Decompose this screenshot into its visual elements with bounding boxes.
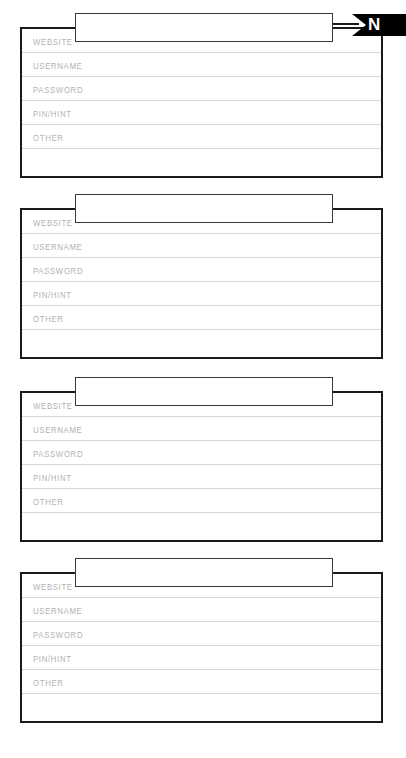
field-row-pin-hint[interactable]: PIN/HINT (22, 282, 381, 306)
password-entry-card: WEBSITE USERNAME PASSWORD PIN/HINT OTHER (20, 208, 383, 359)
password-entry-card: WEBSITE USERNAME PASSWORD PIN/HINT OTHER (20, 572, 383, 723)
field-row-password[interactable]: PASSWORD (22, 77, 381, 101)
field-value-other[interactable] (96, 670, 373, 694)
field-label-username: USERNAME (33, 417, 82, 441)
field-row-username[interactable]: USERNAME (22, 417, 381, 441)
entry-field-rows: WEBSITE USERNAME PASSWORD PIN/HINT OTHER (22, 393, 381, 540)
field-label-password: PASSWORD (33, 622, 83, 646)
field-value-pin-hint[interactable] (96, 465, 373, 489)
field-value-password[interactable] (96, 77, 373, 101)
field-row-other[interactable]: OTHER (22, 306, 381, 330)
entry-field-rows: WEBSITE USERNAME PASSWORD PIN/HINT OTHER (22, 29, 381, 176)
password-entry-card: WEBSITE USERNAME PASSWORD PIN/HINT OTHER (20, 391, 383, 542)
field-row-username[interactable]: USERNAME (22, 53, 381, 77)
field-label-other: OTHER (33, 306, 64, 330)
field-row-blank[interactable] (22, 330, 381, 354)
field-row-password[interactable]: PASSWORD (22, 622, 381, 646)
field-label-other: OTHER (33, 670, 64, 694)
field-label-pin-hint: PIN/HINT (33, 465, 72, 489)
field-label-pin-hint: PIN/HINT (33, 101, 72, 125)
field-row-pin-hint[interactable]: PIN/HINT (22, 646, 381, 670)
entry-title-input[interactable] (76, 14, 332, 41)
field-label-password: PASSWORD (33, 441, 83, 465)
entry-title-box[interactable] (75, 194, 333, 223)
field-value-username[interactable] (96, 598, 373, 622)
field-value-other[interactable] (96, 306, 373, 330)
entry-title-input[interactable] (76, 378, 332, 405)
entry-field-rows: WEBSITE USERNAME PASSWORD PIN/HINT OTHER (22, 210, 381, 357)
entry-title-input[interactable] (76, 195, 332, 222)
field-label-other: OTHER (33, 125, 64, 149)
index-tab-connector-line (333, 23, 359, 25)
password-log-page: N WEBSITE USERNAME PASSWORD PIN/HINT OTH… (0, 0, 406, 758)
field-value-password[interactable] (96, 441, 373, 465)
field-value-blank[interactable] (96, 330, 373, 354)
entry-title-box[interactable] (75, 377, 333, 406)
field-value-pin-hint[interactable] (96, 646, 373, 670)
field-value-blank[interactable] (96, 513, 373, 537)
alphabet-index-tab[interactable]: N (352, 14, 406, 36)
field-value-blank[interactable] (96, 694, 373, 718)
field-label-website: WEBSITE (33, 574, 73, 598)
field-label-username: USERNAME (33, 598, 82, 622)
field-label-website: WEBSITE (33, 393, 73, 417)
field-value-other[interactable] (96, 489, 373, 513)
entry-field-rows: WEBSITE USERNAME PASSWORD PIN/HINT OTHER (22, 574, 381, 721)
index-tab-letter: N (368, 14, 394, 36)
entry-title-input[interactable] (76, 559, 332, 586)
field-row-other[interactable]: OTHER (22, 489, 381, 513)
field-row-other[interactable]: OTHER (22, 125, 381, 149)
field-row-password[interactable]: PASSWORD (22, 258, 381, 282)
field-value-username[interactable] (96, 417, 373, 441)
field-row-blank[interactable] (22, 149, 381, 173)
field-value-password[interactable] (96, 258, 373, 282)
field-label-pin-hint: PIN/HINT (33, 282, 72, 306)
field-label-other: OTHER (33, 489, 64, 513)
field-value-pin-hint[interactable] (96, 101, 373, 125)
field-row-username[interactable]: USERNAME (22, 598, 381, 622)
field-label-pin-hint: PIN/HINT (33, 646, 72, 670)
field-row-blank[interactable] (22, 513, 381, 537)
field-value-username[interactable] (96, 53, 373, 77)
field-value-username[interactable] (96, 234, 373, 258)
field-label-password: PASSWORD (33, 258, 83, 282)
field-label-username: USERNAME (33, 234, 82, 258)
entry-title-box[interactable] (75, 558, 333, 587)
field-label-password: PASSWORD (33, 77, 83, 101)
field-label-website: WEBSITE (33, 29, 73, 53)
field-row-blank[interactable] (22, 694, 381, 718)
field-value-other[interactable] (96, 125, 373, 149)
entry-title-box[interactable] (75, 13, 333, 42)
field-label-website: WEBSITE (33, 210, 73, 234)
field-value-pin-hint[interactable] (96, 282, 373, 306)
password-entry-card: WEBSITE USERNAME PASSWORD PIN/HINT OTHER (20, 27, 383, 178)
field-row-pin-hint[interactable]: PIN/HINT (22, 101, 381, 125)
field-label-username: USERNAME (33, 53, 82, 77)
field-row-other[interactable]: OTHER (22, 670, 381, 694)
field-value-password[interactable] (96, 622, 373, 646)
field-row-pin-hint[interactable]: PIN/HINT (22, 465, 381, 489)
field-row-password[interactable]: PASSWORD (22, 441, 381, 465)
field-row-username[interactable]: USERNAME (22, 234, 381, 258)
field-value-blank[interactable] (96, 149, 373, 173)
